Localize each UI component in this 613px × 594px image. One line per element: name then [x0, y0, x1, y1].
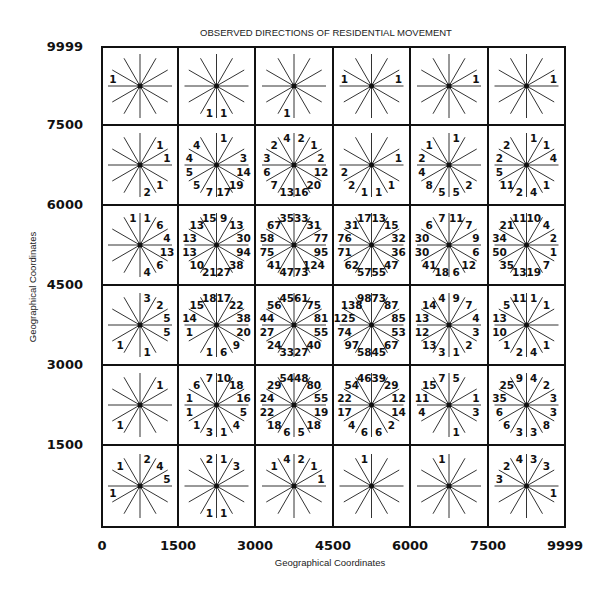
- sector-count: 2: [341, 166, 348, 178]
- rose-cell: 73878553674558977412513898: [333, 285, 410, 365]
- sector-count: 7: [438, 372, 445, 384]
- x-tick-label: 4500: [315, 538, 351, 553]
- sector-count: 3: [472, 406, 479, 418]
- sector-count: 18: [229, 379, 244, 391]
- sector-count: 11: [499, 179, 514, 191]
- sector-count: 7: [206, 186, 213, 198]
- sector-count: 5: [163, 326, 170, 338]
- sector-count: 5: [193, 179, 200, 191]
- rose-cell: 1: [102, 47, 178, 125]
- sector-count: 16: [236, 392, 251, 404]
- rose-cell: 11414211522: [488, 125, 565, 205]
- center-dot: [369, 323, 374, 328]
- sector-count: 4: [418, 166, 425, 178]
- sector-count: 2: [465, 179, 472, 191]
- sector-count: 6: [472, 246, 479, 258]
- chart-title: OBSERVED DIRECTIONS OF RESIDENTIAL MOVEM…: [200, 27, 452, 38]
- sector-count: 3: [472, 326, 479, 338]
- sector-count: 1: [472, 73, 479, 85]
- sector-count: 20: [236, 326, 251, 338]
- sector-count: 9: [472, 232, 479, 244]
- sector-count: 2: [516, 186, 523, 198]
- sector-count: 1: [388, 179, 395, 191]
- sector-count: 5: [186, 166, 193, 178]
- sector-count: 3: [516, 426, 523, 438]
- sector-count: 4: [550, 152, 557, 164]
- sector-count: 98: [357, 292, 372, 304]
- sector-count: 9: [516, 372, 523, 384]
- sector-count: 13: [279, 186, 294, 198]
- center-dot: [524, 323, 529, 328]
- sector-count: 1: [186, 406, 193, 418]
- sector-count: 1: [156, 179, 163, 191]
- rose-cell: 3331779512473474175586735: [255, 205, 333, 285]
- sector-count: 13: [422, 339, 437, 351]
- sector-count: 5: [163, 312, 170, 324]
- center-dot: [447, 84, 452, 89]
- rose-cell: 1: [333, 445, 410, 527]
- sector-count: 67: [384, 339, 399, 351]
- sector-count: 20: [306, 179, 321, 191]
- sector-count: 1: [220, 132, 227, 144]
- sector-count: 13: [492, 312, 507, 324]
- sector-count: 1: [550, 487, 557, 499]
- center-dot: [138, 323, 143, 328]
- sector-count: 41: [422, 259, 437, 271]
- sector-count: 2: [418, 152, 425, 164]
- sector-count: 1: [317, 473, 324, 485]
- sector-count: 2: [550, 232, 557, 244]
- sector-count: 1: [550, 73, 557, 85]
- sector-count: 3: [496, 473, 503, 485]
- sector-count: 15: [202, 212, 217, 224]
- sector-count: 35: [279, 212, 294, 224]
- x-tick-label: 3000: [237, 538, 273, 553]
- sector-count: 18: [202, 292, 217, 304]
- sector-count: 27: [294, 346, 309, 358]
- sector-count: 2: [348, 179, 355, 191]
- sector-count: 4: [283, 132, 290, 144]
- rose-cell: 111122: [333, 125, 410, 205]
- sector-count: 71: [337, 246, 352, 258]
- sector-count: 1: [156, 379, 163, 391]
- sector-count: 1: [144, 212, 151, 224]
- sector-count: 1: [193, 419, 200, 431]
- sector-count: 1: [530, 292, 537, 304]
- center-dot: [524, 243, 529, 248]
- sector-count: 5: [496, 166, 503, 178]
- sector-count: 3: [263, 152, 270, 164]
- sector-count: 22: [260, 406, 275, 418]
- sector-count: 54: [279, 372, 294, 384]
- center-dot: [524, 403, 529, 408]
- sector-count: 30: [415, 246, 430, 258]
- rose-cell: 172238209611141518: [178, 285, 255, 365]
- sector-count: 1: [453, 132, 460, 144]
- rose-cell: 39291214266417225446: [333, 365, 410, 445]
- sector-count: 18: [267, 419, 282, 431]
- x-tick-label: 7500: [470, 538, 506, 553]
- sector-count: 16: [294, 186, 309, 198]
- sector-count: 2: [496, 152, 503, 164]
- center-dot: [447, 243, 452, 248]
- rose-cell: 4880551918561822242954: [255, 365, 333, 445]
- rose-cell: 617581554027332427445645: [255, 285, 333, 365]
- center-dot: [524, 163, 529, 168]
- sector-count: 19: [314, 406, 329, 418]
- sector-count: 19: [526, 266, 541, 278]
- sector-count: 10: [492, 326, 507, 338]
- rose-cell: 1114211013511: [488, 285, 565, 365]
- x-tick-label: 6000: [392, 538, 428, 553]
- y-tick-label: 1500: [47, 437, 83, 452]
- sector-count: 4: [530, 346, 537, 358]
- sector-count: 41: [267, 259, 282, 271]
- sector-count: 1: [543, 299, 550, 311]
- sector-count: 4: [144, 266, 151, 278]
- sector-count: 1: [361, 453, 368, 465]
- sector-count: 6: [426, 219, 433, 231]
- sector-count: 1: [220, 507, 227, 519]
- sector-count: 33: [279, 346, 294, 358]
- sector-count: 1: [472, 392, 479, 404]
- sector-count: 7: [206, 372, 213, 384]
- x-axis-label: Geographical Coordinates: [275, 557, 386, 568]
- sector-count: 1: [310, 139, 317, 151]
- sector-count: 6: [503, 419, 510, 431]
